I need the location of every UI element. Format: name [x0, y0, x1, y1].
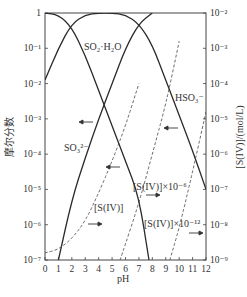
y-left-axis-title: 摩尔分数 [3, 117, 15, 157]
x-tick-label: 2 [69, 264, 74, 274]
y-right-tick-label: 10⁻⁶ [210, 149, 228, 159]
series-line [45, 84, 139, 253]
y-left-tick-label: 10⁻⁶ [23, 220, 41, 230]
y-right-tick-label: 10⁻³ [210, 43, 228, 53]
arrow-right-icon [156, 193, 160, 197]
y-right-tick-label: 10⁻⁸ [210, 220, 228, 230]
x-tick-label: 4 [96, 264, 101, 274]
label-s4-1e-6: [S(IV)]×10⁻⁶ [133, 181, 187, 193]
y-left-tick-label: 10⁻² [24, 79, 42, 89]
x-tick-label: 1 [56, 264, 61, 274]
label-hso3: HSO₃⁻ [175, 92, 204, 103]
arrow-right-icon [98, 222, 102, 226]
y-left-tick-label: 10⁻¹ [24, 43, 42, 53]
x-axis-title: pH [117, 273, 129, 284]
y-left-tick-label: 10⁻⁴ [23, 149, 42, 159]
y-right-axis-title: [S(IV)]/(mol/L) [234, 105, 246, 168]
x-tick-label: 5 [110, 264, 115, 274]
label-so3: SO₃²⁻ [64, 142, 89, 153]
y-left-tick-label: 10⁻⁷ [23, 255, 41, 265]
x-tick-label: 0 [43, 264, 48, 274]
x-tick-label: 12 [201, 264, 211, 274]
speciation-chart: 0123456789101112110⁻¹10⁻²10⁻³10⁻⁴10⁻⁵10⁻… [0, 0, 247, 297]
arrow-right-icon [199, 231, 203, 235]
arrow-left-icon [106, 165, 110, 169]
x-tick-label: 8 [150, 264, 155, 274]
y-left-tick-label: 10⁻³ [24, 114, 42, 124]
x-tick-label: 3 [83, 264, 88, 274]
y-left-tick-label: 10⁻⁵ [23, 184, 41, 194]
y-right-tick-label: 10⁻⁵ [210, 114, 228, 124]
x-tick-label: 9 [163, 264, 168, 274]
label-so2-h2o: SO₂·H₂O [84, 41, 122, 52]
x-tick-label: 11 [188, 264, 197, 274]
y-right-tick-label: 10⁻² [210, 8, 228, 18]
y-right-tick-label: 10⁻⁴ [210, 79, 229, 89]
arrow-left-icon [164, 126, 168, 130]
x-tick-label: 10 [174, 264, 184, 274]
x-tick-label: 7 [137, 264, 142, 274]
arrow-left-icon [79, 120, 83, 124]
label-s4: [S(IV)] [94, 202, 123, 214]
y-right-tick-label: 10⁻⁹ [210, 255, 229, 265]
label-s4-1e-12: [S(IV)]×10⁻¹² [144, 218, 200, 230]
y-left-tick-label: 1 [36, 8, 41, 18]
y-right-tick-label: 10⁻⁷ [210, 184, 228, 194]
